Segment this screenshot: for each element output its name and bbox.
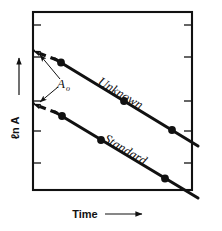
intercept-label-subscript: o xyxy=(66,84,70,93)
intercept-label: A xyxy=(56,76,65,91)
x-axis-label: Time xyxy=(72,208,97,220)
standard-data-point xyxy=(161,175,169,183)
unknown-data-point xyxy=(168,126,176,134)
y-axis-label: ℓn A xyxy=(9,117,21,140)
standard-data-point xyxy=(58,112,66,120)
figure-container: Unknown Standard A o ℓn A Time xyxy=(0,0,222,231)
plot-svg: Unknown Standard A o ℓn A Time xyxy=(0,0,222,231)
unknown-data-point xyxy=(57,59,65,67)
